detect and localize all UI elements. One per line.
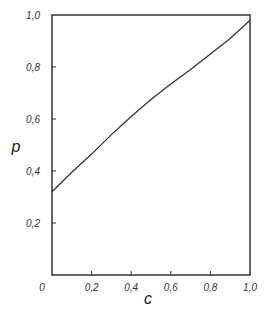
y-tick-label: 1,0	[26, 10, 40, 21]
data-line	[52, 20, 250, 192]
x-tick-label: 0,8	[203, 282, 217, 293]
x-tick-label: 1,0	[243, 282, 257, 293]
plot-frame	[52, 15, 250, 275]
x-axis-label: c	[144, 290, 152, 307]
x-tick-label: 0,4	[124, 282, 138, 293]
y-tick-label: 0,2	[26, 218, 40, 229]
y-tick-label: 0,8	[26, 62, 40, 73]
x-tick-label: 0,2	[85, 282, 99, 293]
y-axis-label: p	[11, 138, 21, 155]
x-tick-label: 0,6	[164, 282, 178, 293]
y-tick-label: 0,4	[26, 166, 40, 177]
x-tick-label: 0	[39, 282, 45, 293]
y-tick-label: 0,6	[26, 114, 40, 125]
chart: 00,20,40,60,81,0 0,20,40,60,81,0 c p	[0, 0, 265, 316]
